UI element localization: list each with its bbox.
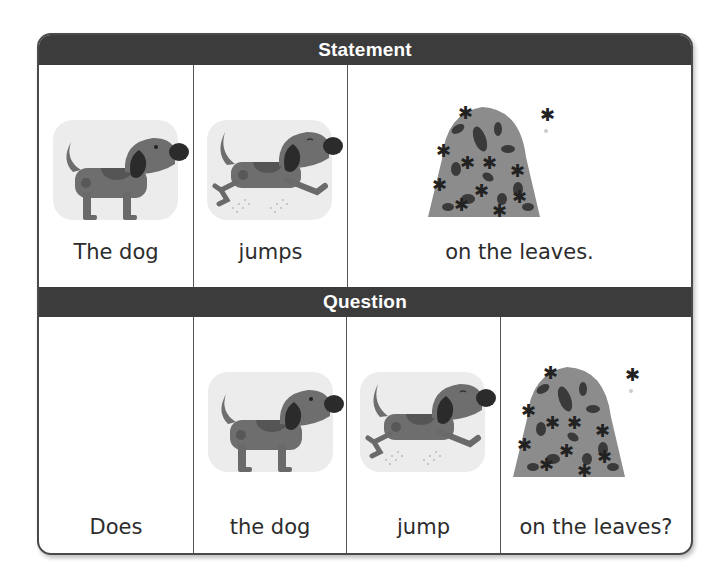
question-label-object: on the leaves?	[501, 515, 691, 539]
statement-question-table: Statement The dog jumps on the leaves. Q…	[37, 33, 693, 555]
dog-standing-icon	[53, 120, 193, 220]
statement-header: Statement	[39, 35, 691, 65]
dog-standing-icon	[208, 372, 348, 472]
question-cell-subject: the dog	[194, 317, 347, 553]
leaf-pile-icon	[428, 99, 558, 219]
leaf-pile-icon	[513, 359, 643, 479]
question-label-auxiliary: Does	[39, 515, 193, 539]
question-cell-object: on the leaves?	[501, 317, 691, 553]
statement-label-subject: The dog	[39, 240, 193, 264]
question-cell-auxiliary: Does	[39, 317, 194, 553]
statement-row: The dog jumps on the leaves.	[39, 65, 691, 287]
dog-jumping-icon	[207, 120, 347, 220]
statement-cell-object: on the leaves.	[348, 65, 691, 287]
statement-label-verb: jumps	[194, 240, 347, 264]
statement-cell-verb: jumps	[194, 65, 348, 287]
question-label-subject: the dog	[194, 515, 346, 539]
statement-label-object: on the leaves.	[348, 240, 691, 264]
dog-jumping-icon	[360, 372, 500, 472]
statement-cell-subject: The dog	[39, 65, 194, 287]
question-row: Does the dog jump on the leaves?	[39, 317, 691, 553]
question-cell-verb: jump	[347, 317, 501, 553]
question-label-verb: jump	[347, 515, 500, 539]
question-header: Question	[39, 287, 691, 317]
